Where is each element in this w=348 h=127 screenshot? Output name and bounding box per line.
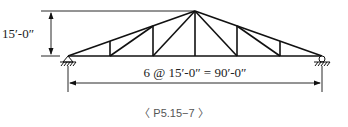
truss-diagram: 15′-0″ 6 @ 15′-0″ = 90′-0″ 〈 P5.15−7 〉 xyxy=(0,0,348,127)
truss-members xyxy=(68,11,322,56)
top-chord-left xyxy=(68,11,195,56)
diagonal-4 xyxy=(237,26,280,56)
pin-support-left xyxy=(60,56,76,66)
height-label: 15′-0″ xyxy=(2,26,34,41)
diagonal-1 xyxy=(110,26,153,56)
span-label: 6 @ 15′-0″ = 90′-0″ xyxy=(144,65,247,80)
top-chord-right xyxy=(195,11,322,56)
height-dimension xyxy=(41,11,195,56)
figure-caption: 〈 P5.15−7 〉 xyxy=(139,107,208,119)
roller-support-right xyxy=(314,56,330,66)
